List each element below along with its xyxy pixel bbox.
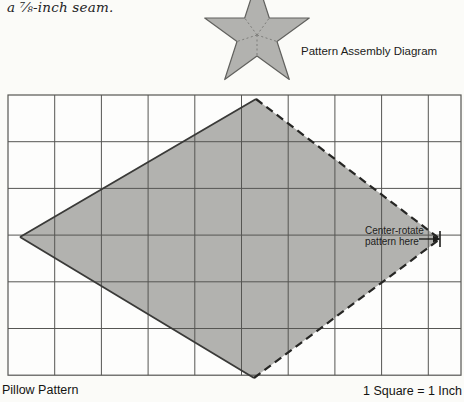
star-pattern-shape	[205, 0, 310, 80]
center-rotate-annotation: Center-rotate pattern here	[365, 226, 424, 247]
grid-scale-label: 1 Square = 1 Inch	[363, 384, 462, 398]
annotation-line-1: Center-rotate	[365, 226, 424, 237]
seam-caption-text: a ⅞-inch seam.	[7, 0, 113, 15]
pillow-pattern-label: Pillow Pattern	[2, 383, 78, 397]
pattern-diagram	[0, 0, 464, 402]
annotation-line-2: pattern here	[365, 237, 424, 248]
pattern-page: a ⅞-inch seam. Pattern Assembly Diagram …	[0, 0, 464, 402]
assembly-diagram-label: Pattern Assembly Diagram	[301, 45, 437, 57]
